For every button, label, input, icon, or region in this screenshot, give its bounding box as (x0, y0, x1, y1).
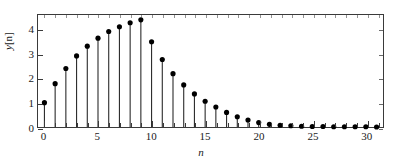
x-tick-top (368, 15, 369, 18)
plot-axes-frame (37, 14, 384, 128)
x-tick-label: 15 (200, 130, 211, 142)
x-tick-top (55, 15, 56, 18)
x-tick-top (303, 15, 304, 18)
x-tick-top (314, 15, 315, 18)
x-tick (44, 121, 45, 127)
x-tick (120, 123, 121, 127)
x-tick (346, 123, 347, 127)
x-tick-top (379, 15, 380, 18)
x-axis-title: n (0, 146, 402, 158)
x-tick (282, 123, 283, 127)
x-tick (368, 121, 369, 127)
y-tick-right (379, 79, 383, 80)
x-tick-top (185, 15, 186, 18)
x-tick-top (271, 15, 272, 18)
x-tick-top (44, 15, 45, 18)
x-tick (379, 123, 380, 127)
x-tick-top (292, 15, 293, 18)
stem-marker (192, 91, 197, 96)
x-tick-top (238, 15, 239, 18)
x-tick (77, 123, 78, 127)
x-tick-top (217, 15, 218, 18)
stem-marker (85, 44, 90, 49)
x-tick (325, 123, 326, 127)
y-tick-label: 2 (22, 72, 34, 84)
x-tick-top (98, 15, 99, 18)
x-tick (206, 121, 207, 127)
stem-marker (63, 66, 68, 71)
x-tick (98, 121, 99, 127)
x-tick-top (109, 15, 110, 18)
x-tick-label: 0 (41, 130, 47, 142)
stem-marker (181, 82, 186, 87)
x-tick-top (163, 15, 164, 18)
x-tick-top (120, 15, 121, 18)
x-tick (303, 123, 304, 127)
y-axis-title-base: y (2, 45, 14, 50)
stem-marker (117, 24, 122, 29)
x-tick-top (88, 15, 89, 18)
y-axis-title: y[n] (2, 32, 14, 50)
stem-marker (106, 29, 111, 34)
x-tick (109, 123, 110, 127)
x-tick (185, 123, 186, 127)
y-tick-label: 3 (22, 48, 34, 60)
x-tick (314, 121, 315, 127)
x-tick-top (174, 15, 175, 18)
stem-marker (53, 81, 58, 86)
x-tick (249, 123, 250, 127)
x-tick-top (335, 15, 336, 18)
x-tick (357, 123, 358, 127)
stem-marker (203, 99, 208, 104)
x-tick-top (260, 15, 261, 18)
x-tick (228, 123, 229, 127)
stem-marker (95, 36, 100, 41)
stem-marker (160, 57, 165, 62)
x-tick (174, 123, 175, 127)
x-tick (163, 123, 164, 127)
y-tick-right (379, 104, 383, 105)
x-tick (260, 121, 261, 127)
stem-series-layer (38, 15, 383, 127)
x-tick (335, 123, 336, 127)
stem-marker (149, 39, 154, 44)
x-tick (195, 123, 196, 127)
x-tick (292, 123, 293, 127)
x-tick-top (66, 15, 67, 18)
x-tick (152, 121, 153, 127)
y-tick (38, 55, 43, 56)
x-tick (131, 123, 132, 127)
x-tick-label: 25 (307, 130, 318, 142)
x-tick (88, 123, 89, 127)
stem-marker (213, 104, 218, 109)
x-tick (66, 123, 67, 127)
x-tick (271, 123, 272, 127)
y-tick-label: 0 (22, 122, 34, 134)
stem-marker (170, 71, 175, 76)
stem-marker (138, 17, 143, 22)
x-tick-top (357, 15, 358, 18)
stem-marker (74, 53, 79, 58)
y-tick (38, 30, 43, 31)
y-tick-right (379, 129, 383, 130)
y-tick-right (379, 30, 383, 31)
x-tick-top (346, 15, 347, 18)
y-tick-label: 4 (22, 23, 34, 35)
y-tick-right (379, 55, 383, 56)
x-tick (55, 123, 56, 127)
x-tick (141, 123, 142, 127)
x-tick-label: 30 (361, 130, 372, 142)
x-tick-top (152, 15, 153, 18)
x-tick-top (141, 15, 142, 18)
x-tick-top (325, 15, 326, 18)
stem-marker (224, 110, 229, 115)
x-tick-top (282, 15, 283, 18)
x-tick-top (77, 15, 78, 18)
x-tick-label: 20 (253, 130, 264, 142)
x-tick-top (195, 15, 196, 18)
x-tick-label: 10 (146, 130, 157, 142)
y-tick-label: 1 (22, 97, 34, 109)
x-tick-top (249, 15, 250, 18)
y-tick (38, 104, 43, 105)
x-tick-top (228, 15, 229, 18)
